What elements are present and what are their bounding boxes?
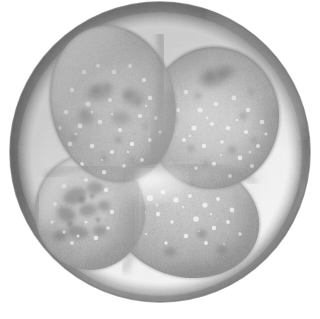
embryo-specimen: [10, 2, 310, 302]
global-tone: [10, 2, 310, 302]
micrograph-viewport: Four-cell stage embryo surrounded by the…: [0, 0, 320, 319]
embryo-micrograph-canvas: [0, 0, 320, 319]
